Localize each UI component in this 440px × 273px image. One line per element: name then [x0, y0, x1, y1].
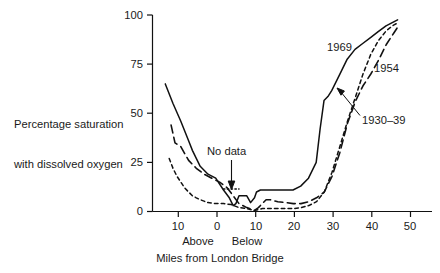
no-data-arrow-head-icon [228, 181, 235, 190]
y-axis-title-line1: Percentage saturation [14, 118, 138, 131]
x-tick-label-0: 0 [202, 220, 232, 233]
chart-figure: Percentage saturation with dissolved oxy… [0, 0, 440, 273]
series-label-1954: 1954 [374, 62, 399, 75]
x-tick-label-30: 30 [318, 220, 348, 233]
x-axis-direction-below: Below [225, 235, 269, 248]
x-axis-title: Miles from London Bridge [0, 252, 440, 265]
series-line-1969 [165, 20, 397, 206]
series-label-1969: 1969 [327, 41, 352, 54]
y-tick-label-0: 0 [115, 205, 143, 218]
x-tick-label-20: 20 [279, 220, 309, 233]
x-tick-label-above-10: 10 [163, 220, 193, 233]
x-tick-label-50: 50 [395, 220, 425, 233]
y-tick-label-50: 50 [115, 107, 143, 120]
annotation-no-data-label: No data [207, 145, 246, 158]
x-tick-label-40: 40 [357, 220, 387, 233]
x-axis-direction-above: Above [176, 235, 220, 248]
y-tick-label-75: 75 [115, 58, 143, 71]
y-tick-label-100: 100 [115, 9, 143, 22]
x-tick-label-below-10: 10 [241, 220, 271, 233]
x-axis-ticks [178, 212, 410, 218]
leader-arrow-head-1930-39-icon [337, 88, 344, 95]
y-axis-ticks [147, 15, 153, 212]
series-label-1930-39: 1930–39 [362, 114, 406, 127]
y-tick-label-25: 25 [115, 156, 143, 169]
